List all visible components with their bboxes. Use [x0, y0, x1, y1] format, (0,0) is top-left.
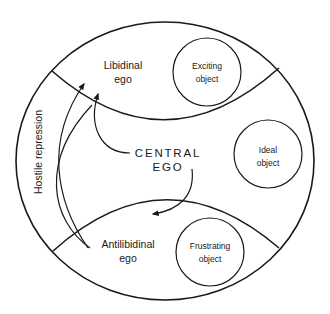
libidinal-ego-label-line1: Libidinal	[104, 59, 143, 71]
central-ego-label-line2: EGO	[153, 161, 184, 173]
central-ego-label-line1: CENTRAL	[135, 147, 201, 159]
exciting-object-label-line2: object	[196, 74, 219, 84]
libidinal-ego-label-line2: ego	[114, 73, 132, 85]
antilibidinal-ego-boundary	[53, 200, 279, 251]
frustrating-object-label-line2: object	[199, 254, 222, 264]
frustrating-object-label-line1: Frustrating	[190, 241, 231, 251]
central-to-libidinal-arrow	[95, 94, 130, 153]
diagram-canvas: Libidinal ego Exciting object CENTRAL EG…	[0, 0, 330, 314]
central-to-antilibidinal-arrow	[153, 169, 192, 214]
hostile-repression-arrow	[59, 84, 88, 248]
hostile-repression-label: Hostile repression	[32, 110, 44, 194]
hostile-repression-band-arc	[56, 105, 92, 248]
antilibidinal-ego-label-line2: ego	[119, 252, 137, 264]
exciting-object-circle	[173, 38, 241, 106]
ideal-object-label-line1: Ideal	[259, 145, 278, 155]
antilibidinal-ego-label-line1: Antilibidinal	[101, 238, 154, 250]
exciting-object-label-line1: Exciting	[192, 61, 222, 71]
ideal-object-label-line2: object	[257, 158, 280, 168]
frustrating-object-circle	[176, 218, 244, 286]
